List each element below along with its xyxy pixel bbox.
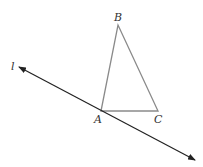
- line-l-label: l: [11, 60, 15, 73]
- point-a-label: A: [93, 113, 102, 126]
- point-c-label: C: [154, 113, 163, 126]
- geometry-diagram: l B A C: [0, 0, 203, 167]
- triangle-abc: [101, 25, 158, 111]
- point-b-label: B: [113, 11, 122, 24]
